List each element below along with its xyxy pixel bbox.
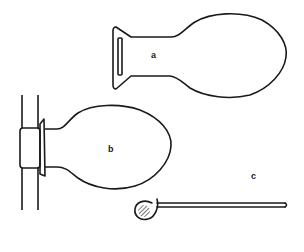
object-a-slot	[118, 38, 122, 75]
collar	[20, 128, 40, 168]
object-c	[135, 199, 287, 219]
flange	[40, 119, 45, 176]
object-b	[20, 95, 171, 210]
hatched-core	[138, 205, 150, 217]
object-a	[113, 14, 286, 98]
label-c: c	[251, 172, 256, 181]
figure-drawing	[0, 0, 304, 252]
label-b: b	[108, 145, 114, 154]
label-a: a	[151, 51, 156, 60]
object-a-outline	[113, 14, 286, 98]
